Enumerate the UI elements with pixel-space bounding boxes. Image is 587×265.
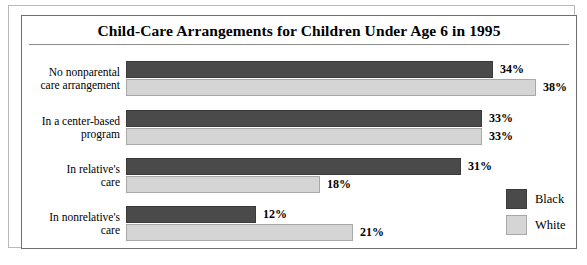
chart-plot-area: No nonparental care arrangement 34% 38% … (22, 50, 576, 248)
bar-row-black: 34% (126, 61, 524, 78)
category-label: In relative's care (22, 163, 126, 190)
category-label-line: care (22, 176, 120, 190)
bar-value-black: 33% (489, 111, 513, 126)
bar-group: No nonparental care arrangement 34% 38% (22, 60, 576, 98)
bar-group: In relative's care 31% 18% (22, 157, 576, 195)
category-label: In nonrelative's care (22, 211, 126, 238)
bar-black (126, 110, 482, 127)
category-label-line: program (22, 128, 120, 142)
bar-black (126, 206, 256, 223)
bar-row-black: 12% (126, 206, 287, 223)
bar-black (126, 61, 493, 78)
legend-item-white: White (506, 214, 576, 236)
bar-value-black: 12% (263, 207, 287, 222)
bar-black (126, 158, 461, 175)
bar-row-white: 33% (126, 128, 513, 145)
legend-swatch-black-icon (506, 189, 527, 209)
category-label: In a center-based program (22, 115, 126, 142)
bar-value-white: 38% (543, 80, 567, 95)
bar-value-white: 33% (489, 129, 513, 144)
legend-label-white: White (535, 218, 566, 233)
category-label-line: care (22, 224, 120, 238)
bar-row-white: 38% (126, 79, 567, 96)
legend-label-black: Black (535, 192, 564, 207)
title-divider (29, 44, 569, 45)
legend-swatch-white-icon (506, 215, 527, 235)
bar-white (126, 224, 353, 241)
page-title: Child-Care Arrangements for Children Und… (97, 22, 500, 40)
bar-row-white: 21% (126, 224, 384, 241)
chart-legend: Black White (506, 188, 576, 240)
bars-wrapper: 34% 38% (126, 60, 576, 98)
category-label-line: In nonrelative's (22, 211, 120, 225)
bar-row-white: 18% (126, 176, 351, 193)
bar-group: In nonrelative's care 12% 21% (22, 205, 576, 243)
chart-outer-frame: Child-Care Arrangements for Children Und… (8, 5, 575, 248)
bar-white (126, 79, 536, 96)
bar-white (126, 128, 482, 145)
bar-value-white: 21% (360, 225, 384, 240)
bar-row-black: 33% (126, 110, 513, 127)
bar-value-white: 18% (327, 177, 351, 192)
bar-value-black: 34% (500, 62, 524, 77)
category-label-line: In a center-based (22, 115, 120, 129)
bar-row-black: 31% (126, 158, 492, 175)
bar-group: In a center-based program 33% 33% (22, 109, 576, 147)
category-label-line: No nonparental (22, 66, 120, 80)
category-label: No nonparental care arrangement (22, 66, 126, 93)
category-label-line: care arrangement (22, 79, 120, 93)
chart-title-block: Child-Care Arrangements for Children Und… (22, 16, 576, 45)
bars-wrapper: 33% 33% (126, 109, 576, 147)
bar-value-black: 31% (468, 159, 492, 174)
legend-item-black: Black (506, 188, 576, 210)
bar-white (126, 176, 320, 193)
category-label-line: In relative's (22, 163, 120, 177)
